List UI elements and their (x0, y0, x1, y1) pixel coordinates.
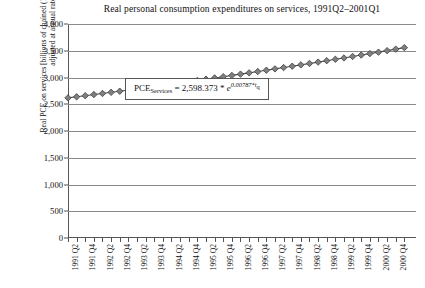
x-tick-mark (387, 238, 388, 242)
x-tick-mark (180, 238, 181, 242)
x-tick-mark (163, 238, 164, 242)
x-tick-mark (335, 238, 336, 242)
x-tick-mark (197, 238, 198, 242)
data-point-marker (246, 70, 252, 76)
x-tick-label: 1994 Q2 (175, 244, 184, 270)
equation-lhs-subscript: Services (151, 87, 173, 94)
x-tick-mark (120, 238, 121, 242)
equation-exponent-subscript: q (257, 83, 260, 90)
data-point-marker (91, 91, 97, 97)
data-point-marker (263, 67, 269, 73)
x-tick-mark (344, 238, 345, 242)
x-tick-mark (240, 238, 241, 242)
x-tick-mark (189, 238, 190, 242)
x-tick-mark (292, 238, 293, 242)
x-tick-mark (249, 238, 250, 242)
equation-rhs: = 2,598.373 * (174, 83, 226, 93)
data-point-marker (108, 89, 114, 95)
x-tick-label: 1995 Q2 (209, 244, 218, 270)
x-tick-mark (275, 238, 276, 242)
data-point-marker (393, 46, 399, 52)
x-tick-label: 1993 Q4 (157, 244, 166, 270)
data-point-marker (272, 66, 278, 72)
y-tick-label: 0 (59, 233, 63, 243)
equation-annotation: PCEServices = 2,598.373 * e0.00787*tq (125, 78, 269, 100)
x-tick-mark (353, 238, 354, 242)
x-tick-mark (206, 238, 207, 242)
x-tick-label: 1991 Q2 (71, 244, 80, 270)
data-point-marker (73, 94, 79, 100)
y-tick-label: 1,500 (44, 153, 63, 163)
chart-title: Real personal consumption expenditures o… (68, 4, 416, 15)
x-tick-mark (137, 238, 138, 242)
x-tick-label: 2000 Q4 (399, 244, 408, 270)
x-tick-mark (309, 238, 310, 242)
data-point-marker (324, 58, 330, 64)
x-tick-mark (111, 238, 112, 242)
x-tick-mark (284, 238, 285, 242)
x-tick-mark (404, 238, 405, 242)
x-tick-mark (68, 238, 69, 242)
x-tick-label: 1996 Q4 (261, 244, 270, 270)
data-point-marker (358, 52, 364, 58)
data-point-marker (255, 68, 261, 74)
x-tick-label: 1996 Q2 (244, 244, 253, 270)
x-tick-mark (266, 238, 267, 242)
data-point-marker (117, 88, 123, 94)
y-tick-label: 4,000 (44, 19, 63, 29)
y-tick-label: 500 (50, 206, 63, 216)
x-tick-label: 1999 Q2 (347, 244, 356, 270)
x-tick-mark (232, 238, 233, 242)
x-tick-mark (146, 238, 147, 242)
x-tick-label: 1994 Q4 (192, 244, 201, 270)
x-tick-mark (361, 238, 362, 242)
x-tick-label: 1998 Q4 (330, 244, 339, 270)
x-tick-mark (327, 238, 328, 242)
data-point-marker (99, 90, 105, 96)
data-point-marker (306, 60, 312, 66)
data-point-marker (315, 59, 321, 65)
data-point-marker (332, 56, 338, 62)
x-tick-label: 1991 Q4 (88, 244, 97, 270)
x-tick-mark (396, 238, 397, 242)
x-tick-mark (301, 238, 302, 242)
x-tick-mark (223, 238, 224, 242)
y-tick-label: 3,500 (44, 46, 63, 56)
equation-exponent: 0.00787*tq (231, 81, 260, 88)
x-tick-mark (128, 238, 129, 242)
x-tick-mark (215, 238, 216, 242)
data-point-marker (82, 92, 88, 98)
x-tick-mark (94, 238, 95, 242)
data-point-marker (289, 63, 295, 69)
y-tick-label: 3,000 (44, 73, 63, 83)
x-tick-label: 1993 Q2 (140, 244, 149, 270)
x-tick-mark (171, 238, 172, 242)
data-point-marker (298, 62, 304, 68)
equation-lhs: PCE (134, 83, 151, 93)
data-point-marker (375, 49, 381, 55)
x-tick-mark (318, 238, 319, 242)
y-tick-label: 2,000 (44, 126, 63, 136)
plot-area: 05001,0001,5002,0002,5003,0003,5004,000 … (68, 24, 416, 238)
data-point-marker (384, 47, 390, 53)
y-tick-label: 1,000 (44, 180, 63, 190)
data-point-marker (65, 95, 71, 101)
x-tick-mark (85, 238, 86, 242)
x-tick-label: 1995 Q4 (226, 244, 235, 270)
x-tick-label: 1997 Q2 (278, 244, 287, 270)
data-point-marker (349, 53, 355, 59)
x-tick-mark (258, 238, 259, 242)
x-tick-mark (370, 238, 371, 242)
x-tick-mark (102, 238, 103, 242)
x-tick-mark (77, 238, 78, 242)
x-tick-mark (378, 238, 379, 242)
data-point-marker (237, 71, 243, 77)
x-tick-label: 1992 Q4 (123, 244, 132, 270)
data-point-marker (367, 50, 373, 56)
x-tick-label: 1992 Q2 (106, 244, 115, 270)
x-tick-mark (154, 238, 155, 242)
x-tick-label: 1998 Q2 (313, 244, 322, 270)
data-point-marker (341, 55, 347, 61)
data-series (68, 24, 416, 238)
y-tick-label: 2,500 (44, 99, 63, 109)
